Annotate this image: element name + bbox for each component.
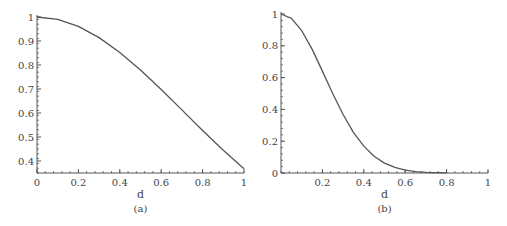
x-tick-label: 1 bbox=[485, 177, 491, 188]
x-tick-label: 0.8 bbox=[439, 177, 455, 188]
y-tick-label: 0.2 bbox=[262, 136, 278, 147]
panel-caption: (a) bbox=[134, 203, 148, 214]
y-tick-label: 0.6 bbox=[18, 108, 34, 119]
data-line bbox=[281, 14, 447, 173]
y-tick-label: 1 bbox=[28, 12, 34, 23]
chart-panel-b: 0.20.40.60.8100.20.40.60.81d(b) bbox=[262, 9, 491, 215]
figure: 00.20.40.60.810.40.50.60.70.80.91d(a)0.2… bbox=[0, 0, 507, 226]
x-tick-label: 1 bbox=[241, 177, 247, 188]
y-tick-label: 0.5 bbox=[18, 132, 34, 143]
x-tick-label: 0.2 bbox=[314, 177, 330, 188]
data-line bbox=[37, 17, 244, 169]
y-tick-label: 0.8 bbox=[262, 40, 278, 51]
y-tick-label: 0.7 bbox=[18, 84, 34, 95]
y-tick-label: 0.6 bbox=[262, 72, 278, 83]
y-tick-label: 0.4 bbox=[18, 156, 34, 167]
y-tick-label: 1 bbox=[272, 9, 278, 20]
x-tick-label: 0.6 bbox=[153, 177, 169, 188]
y-tick-label: 0 bbox=[272, 168, 278, 179]
x-axis-label: d bbox=[381, 188, 388, 201]
x-tick-label: 0 bbox=[34, 177, 40, 188]
chart-panel-a: 00.20.40.60.810.40.50.60.70.80.91d(a) bbox=[18, 12, 247, 215]
x-tick-label: 0.8 bbox=[195, 177, 211, 188]
x-tick-label: 0.4 bbox=[356, 177, 372, 188]
x-axis-label: d bbox=[137, 188, 144, 201]
y-tick-label: 0.8 bbox=[18, 60, 34, 71]
x-tick-label: 0.2 bbox=[70, 177, 86, 188]
panel-caption: (b) bbox=[377, 203, 391, 214]
x-tick-label: 0.4 bbox=[112, 177, 128, 188]
y-tick-label: 0.4 bbox=[262, 104, 278, 115]
y-tick-label: 0.9 bbox=[18, 36, 34, 47]
x-tick-label: 0.6 bbox=[397, 177, 413, 188]
